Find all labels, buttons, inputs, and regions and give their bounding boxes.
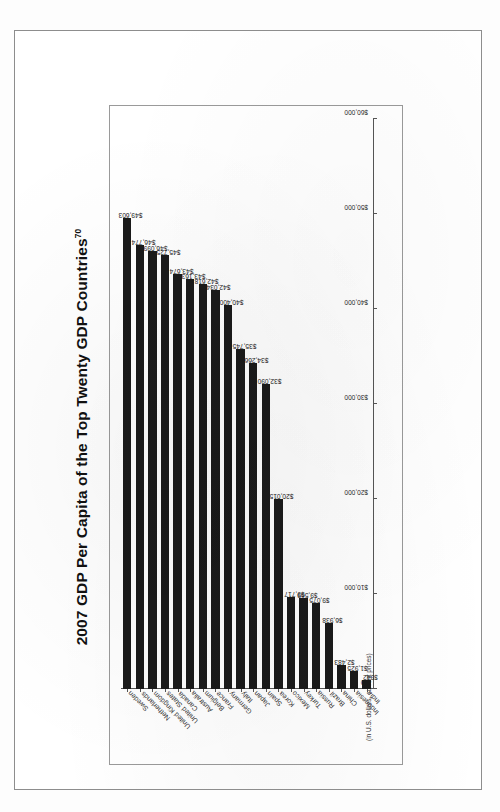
axis-tick <box>373 118 377 119</box>
bar-row[interactable]: Italy$35,745 <box>234 119 247 689</box>
bar-row[interactable]: Spain$32,090 <box>260 119 273 689</box>
axis-tick <box>373 403 377 404</box>
bar[interactable] <box>299 598 307 689</box>
bar-row[interactable]: Mexico$9,717 <box>285 119 298 689</box>
bar-row[interactable]: United States$45,725 <box>159 119 172 689</box>
bar-row[interactable]: Canada$43,674 <box>171 119 184 689</box>
bar-row[interactable]: Korea$20,015 <box>272 119 285 689</box>
chart-title-footnote: 70 <box>73 229 83 239</box>
bar-row[interactable]: Belgium$42,618 <box>197 119 210 689</box>
bar[interactable] <box>161 255 169 689</box>
bar[interactable] <box>148 251 156 689</box>
bar-value-label: $942 <box>363 674 378 681</box>
bar-row[interactable]: Russia$9,075 <box>310 119 323 689</box>
bar[interactable] <box>236 349 244 689</box>
bar[interactable] <box>287 597 295 689</box>
chart-title-text: 2007 GDP Per Capita of the Top Twenty GD… <box>73 238 90 645</box>
chart-title: 2007 GDP Per Capita of the Top Twenty GD… <box>73 87 91 787</box>
bar-row[interactable]: France$42,034 <box>209 119 222 689</box>
bar[interactable] <box>274 499 282 689</box>
bar[interactable] <box>350 671 358 689</box>
plot-area: $0$10,000$20,000$30,000$40,000$50,000$60… <box>121 119 373 689</box>
bar[interactable] <box>249 363 257 689</box>
bar-row[interactable]: Turkey$9,569 <box>297 119 310 689</box>
bar[interactable] <box>186 279 194 689</box>
bar-row[interactable]: Indonesia$1,925 <box>348 119 361 689</box>
axis-tick-label: $60,000 <box>345 109 369 116</box>
bar-row[interactable]: Sweden$49,603 <box>121 119 134 689</box>
bar[interactable] <box>173 274 181 689</box>
axis-tick <box>373 498 377 499</box>
bar-row[interactable]: India$942 <box>360 119 373 689</box>
bar[interactable] <box>136 245 144 689</box>
category-axis-line <box>373 119 374 689</box>
axis-tick <box>373 308 377 309</box>
chart-canvas: 2007 GDP Per Capita of the Top Twenty GD… <box>65 87 465 787</box>
bar[interactable] <box>123 218 131 689</box>
bar-row[interactable]: Australia$43,163 <box>184 119 197 689</box>
bar-row[interactable]: Netherlands$46,774 <box>134 119 147 689</box>
bar[interactable] <box>325 623 333 689</box>
scanned-page: 2007 GDP Per Capita of the Top Twenty GD… <box>0 0 500 812</box>
bar[interactable] <box>224 305 232 689</box>
bar[interactable] <box>262 384 270 689</box>
bar[interactable] <box>199 284 207 689</box>
axis-tick <box>373 593 377 594</box>
bar[interactable] <box>337 665 345 689</box>
bar[interactable] <box>211 290 219 689</box>
bar-row[interactable]: Brazil$6,938 <box>323 119 336 689</box>
bar-row[interactable]: Japan$34,266 <box>247 119 260 689</box>
bar[interactable] <box>362 680 370 689</box>
bar[interactable] <box>312 603 320 689</box>
axis-tick <box>373 688 377 689</box>
axis-tick <box>373 213 377 214</box>
bar-row[interactable]: Germany$40,400 <box>222 119 235 689</box>
bar-row[interactable]: United Kingdom$46,099 <box>146 119 159 689</box>
bar-row[interactable]: China$2,483 <box>335 119 348 689</box>
chart-inner: 2007 GDP Per Capita of the Top Twenty GD… <box>65 87 465 787</box>
page-frame: 2007 GDP Per Capita of the Top Twenty GD… <box>14 30 482 790</box>
